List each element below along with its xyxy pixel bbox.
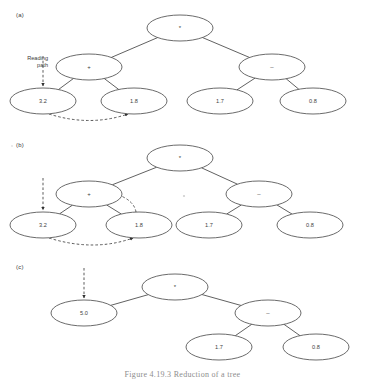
node-label: 1.7 <box>215 344 223 350</box>
node-label: 1.7 <box>205 222 213 228</box>
figure-tree-reduction: (a) (b) (c) Reading path *+–3.21.81.70.8… <box>0 0 365 381</box>
tree-edge <box>235 324 251 335</box>
tree-node: 1.8 <box>106 212 172 238</box>
tree-node: 0.8 <box>283 334 349 360</box>
tree-node: 1.8 <box>101 88 167 114</box>
tree-edge <box>284 324 300 335</box>
tree-node: 3.2 <box>10 88 76 114</box>
tree-edge <box>59 78 74 89</box>
node-label: + <box>87 64 91 70</box>
node-label: 1.8 <box>130 98 138 104</box>
node-label: 1.7 <box>216 98 224 104</box>
node-label: 3.2 <box>39 222 47 228</box>
node-label: 5.0 <box>80 310 88 316</box>
node-label: 3.2 <box>39 98 47 104</box>
tree-edge <box>111 295 149 306</box>
tree-edge <box>112 167 156 185</box>
tree-node: 0.8 <box>280 88 346 114</box>
tree-edge <box>227 205 242 214</box>
tree-diagram-canvas: *+–3.21.81.70.8*+–3.21.81.70.8*5.0–1.70.… <box>0 0 365 381</box>
tree-edge <box>202 168 238 184</box>
leaf-to-leaf-arrow-icon <box>49 114 128 121</box>
tree-edge <box>202 295 241 306</box>
tree-node: + <box>56 54 122 80</box>
panel-label-b: (b) <box>16 142 24 148</box>
tree-node: 5.0 <box>51 300 117 326</box>
tree-node: * <box>147 15 213 41</box>
tree-edge <box>237 78 255 90</box>
tree-edge <box>286 79 299 90</box>
node-label: 0.8 <box>309 98 317 104</box>
node-label: 0.8 <box>312 344 320 350</box>
panel-label-a: (a) <box>16 12 24 18</box>
tree-node: – <box>239 54 305 80</box>
tree-node: * <box>142 274 208 300</box>
node-label: + <box>87 191 91 197</box>
tree-node: 1.7 <box>187 88 253 114</box>
leaf-to-leaf-arrow-icon <box>49 238 133 245</box>
tree-edge <box>60 205 73 214</box>
tree-node: 3.2 <box>10 212 76 238</box>
node-label: 1.8 <box>135 222 143 228</box>
tree-node: * <box>147 145 213 171</box>
tree-edge <box>104 79 118 90</box>
tree-node: 1.7 <box>186 334 252 360</box>
nodes-layer: *+–3.21.81.70.8*+–3.21.81.70.8*5.0–1.70.… <box>10 15 349 360</box>
tree-edge <box>111 38 157 58</box>
figure-caption: Figure 4.19.3 Reduction of a tree <box>0 370 365 379</box>
tree-node: + <box>56 181 122 207</box>
panel-label-c: (c) <box>16 264 24 270</box>
tree-edge <box>277 205 292 214</box>
tree-edge <box>202 38 249 58</box>
node-label: 0.8 <box>306 222 314 228</box>
tree-node: 1.7 <box>176 212 242 238</box>
tree-node: – <box>235 300 301 326</box>
reading-path-label: Reading path <box>8 55 48 68</box>
tree-edge <box>107 205 122 214</box>
tree-node: – <box>226 181 292 207</box>
tree-node: 0.8 <box>277 212 343 238</box>
